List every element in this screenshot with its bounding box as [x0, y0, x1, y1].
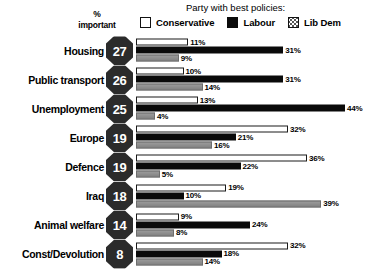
bar-value-label: 18% [224, 249, 239, 258]
bar-labour [136, 163, 241, 170]
pct-important-line2: important [62, 20, 132, 31]
bar-value-label: 13% [200, 96, 215, 105]
bar-libdem [136, 142, 212, 149]
black-square-icon [227, 17, 238, 28]
chart-row: Iraq1819%10%39% [0, 181, 374, 210]
bar-value-label: 9% [181, 212, 192, 221]
bar-libdem [136, 229, 174, 236]
legend-item-libdem: Lib Dem [288, 17, 341, 28]
bar-value-label: 4% [157, 112, 168, 121]
row-category-label: Unemployment [0, 103, 104, 115]
chart-header: % important Party with best policies: Co… [0, 0, 374, 36]
bar-libdem [136, 84, 203, 91]
bar-labour [136, 221, 250, 228]
row-bar-group: 10%31%14% [136, 67, 374, 92]
bar-conservative [136, 184, 226, 191]
row-bar-group: 32%18%14% [136, 242, 374, 267]
pct-important-badge: 19 [106, 123, 133, 152]
pct-important-line1: % [62, 9, 132, 20]
chart-row: Housing2711%31%9% [0, 36, 374, 65]
legend-title: Party with best policies: [186, 2, 285, 13]
bar-value-label: 31% [285, 75, 300, 84]
chart-row: Unemployment2513%44%4% [0, 94, 374, 123]
bar-labour [136, 134, 236, 141]
legend-label-labour: Labour [243, 17, 275, 28]
bar-labour [136, 250, 222, 257]
row-category-label: Const/Devolution [0, 248, 104, 260]
row-category-label: Public transport [0, 74, 104, 86]
chart-legend: Conservative Labour Lib Dem [140, 15, 354, 29]
bar-libdem [136, 55, 179, 62]
row-category-label: Animal welfare [0, 219, 104, 231]
pct-important-badge: 25 [106, 94, 133, 123]
chart-rows: Housing2711%31%9%Public transport2610%31… [0, 36, 374, 269]
bar-libdem [136, 258, 203, 265]
chart-row: Animal welfare149%24%8% [0, 211, 374, 240]
bar-labour [136, 76, 283, 83]
row-bar-group: 32%21%16% [136, 125, 374, 150]
bar-value-label: 39% [323, 199, 338, 208]
row-category-label: Iraq [0, 190, 104, 202]
pct-important-badge: 18 [106, 182, 133, 211]
bar-value-label: 14% [205, 83, 220, 92]
bar-labour [136, 47, 283, 54]
bar-value-label: 22% [243, 162, 258, 171]
pct-important-badge: 14 [106, 211, 133, 240]
bar-libdem [136, 200, 321, 207]
dotted-square-icon [288, 17, 299, 28]
pct-important-badge: 27 [106, 36, 133, 65]
chart-row: Defence1936%22%5% [0, 152, 374, 181]
row-category-label: Europe [0, 132, 104, 144]
row-bar-group: 13%44%4% [136, 96, 374, 121]
bar-value-label: 32% [290, 241, 305, 250]
bar-conservative [136, 97, 198, 104]
party-best-policies-chart: % important Party with best policies: Co… [0, 0, 374, 269]
chart-row: Public transport2610%31%14% [0, 65, 374, 94]
legend-label-libdem: Lib Dem [304, 17, 341, 28]
row-bar-group: 9%24%8% [136, 213, 374, 238]
bar-conservative [136, 242, 288, 249]
bar-value-label: 11% [190, 38, 205, 47]
bar-value-label: 31% [285, 46, 300, 55]
bar-conservative [136, 213, 179, 220]
bar-value-label: 44% [347, 104, 362, 113]
bar-value-label: 10% [186, 67, 201, 76]
legend-item-conservative: Conservative [140, 17, 214, 28]
pct-important-badge: 8 [106, 240, 133, 269]
bar-conservative [136, 39, 188, 46]
bar-value-label: 10% [186, 191, 201, 200]
row-category-label: Defence [0, 161, 104, 173]
pct-important-badge: 19 [106, 152, 133, 181]
bar-libdem [136, 171, 160, 178]
row-bar-group: 36%22%5% [136, 154, 374, 179]
bar-labour [136, 105, 345, 112]
chart-row: Europe1932%21%16% [0, 123, 374, 152]
bar-value-label: 8% [176, 228, 187, 237]
legend-item-labour: Labour [227, 17, 275, 28]
row-bar-group: 19%10%39% [136, 184, 374, 209]
chart-row: Const/Devolution832%18%14% [0, 240, 374, 269]
bar-value-label: 32% [290, 125, 305, 134]
bar-value-label: 36% [309, 154, 324, 163]
bar-value-label: 5% [162, 170, 173, 179]
bar-libdem [136, 113, 155, 120]
bar-value-label: 16% [214, 141, 229, 150]
bar-value-label: 9% [181, 54, 192, 63]
bar-conservative [136, 68, 184, 75]
pct-important-column-header: % important [62, 9, 132, 30]
pct-important-badge: 26 [106, 65, 133, 94]
bar-labour [136, 192, 184, 199]
bar-conservative [136, 155, 307, 162]
bar-value-label: 14% [205, 257, 220, 266]
bar-value-label: 19% [228, 183, 243, 192]
row-bar-group: 11%31%9% [136, 38, 374, 63]
legend-label-conservative: Conservative [156, 17, 214, 28]
bar-value-label: 24% [252, 220, 267, 229]
bar-conservative [136, 126, 288, 133]
row-category-label: Housing [0, 45, 104, 57]
white-square-outline-icon [140, 17, 151, 28]
bar-value-label: 21% [238, 133, 253, 142]
